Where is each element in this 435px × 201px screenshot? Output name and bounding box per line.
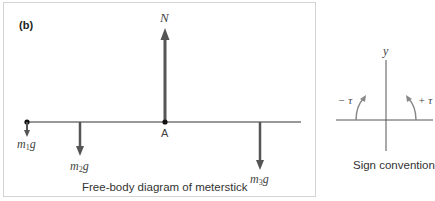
m1g-label: m1g [17,137,36,152]
m1g-arrow [24,119,30,137]
m2g-label: m2g [70,159,89,174]
m3g-arrow [256,122,264,170]
pivot-label: A [161,127,168,139]
normal-force-label: N [160,10,169,26]
negative-torque-label: − τ [338,94,352,106]
sign-convention-caption: Sign convention [353,159,435,171]
fbd-caption: Free-body diagram of meterstick [82,181,248,193]
pivot-point [162,119,167,124]
m2g-arrow [76,122,84,156]
positive-torque-label: + τ [418,94,432,106]
normal-force-arrow [161,28,170,122]
y-axis-label: y [383,44,388,59]
m3g-label: m3g [250,172,269,187]
positive-torque-arrow [406,95,416,120]
negative-torque-arrow [356,95,366,120]
